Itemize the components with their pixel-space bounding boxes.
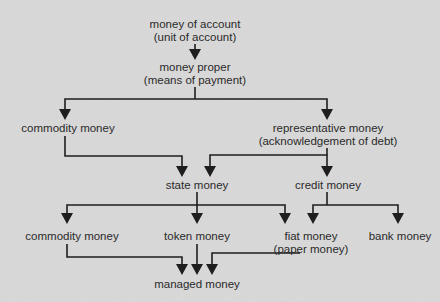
money-hierarchy-diagram: money of account (unit of account) money…: [0, 0, 440, 302]
node-label: money of account: [150, 18, 241, 31]
node-money-of-account: money of account (unit of account): [150, 18, 241, 43]
node-fiat-money: fiat money (paper money): [274, 230, 349, 255]
edge-proper-split: [59, 87, 333, 120]
node-label: money proper: [144, 61, 246, 74]
edge-state-split: [61, 192, 291, 224]
node-token-money: token money: [164, 230, 230, 243]
diagram-edges: [0, 0, 440, 302]
node-commodity-money-lower: commodity money: [25, 230, 118, 243]
node-label: representative money: [259, 122, 398, 135]
node-representative-money: representative money (acknowledgement of…: [259, 122, 398, 147]
node-label: commodity money: [25, 230, 118, 243]
node-credit-money: credit money: [295, 179, 361, 192]
node-label: state money: [166, 179, 229, 192]
node-label: fiat money: [274, 230, 349, 243]
node-bank-money: bank money: [369, 230, 432, 243]
edge-representative-split: [204, 148, 333, 177]
node-sublabel: (paper money): [274, 243, 349, 256]
node-state-money: state money: [166, 179, 229, 192]
edge-commodity-to-state: [65, 136, 188, 177]
node-commodity-money-upper: commodity money: [21, 122, 114, 135]
edge-to-managed: [67, 244, 300, 275]
node-sublabel: (means of payment): [144, 74, 246, 87]
node-label: managed money: [154, 278, 240, 291]
node-label: credit money: [295, 179, 361, 192]
edge-credit-split: [307, 192, 404, 224]
node-label: bank money: [369, 230, 432, 243]
node-sublabel: (unit of account): [150, 31, 241, 44]
edge-account-to-proper: [189, 44, 201, 60]
node-label: commodity money: [21, 122, 114, 135]
node-label: token money: [164, 230, 230, 243]
node-sublabel: (acknowledgement of debt): [259, 135, 398, 148]
node-managed-money: managed money: [154, 278, 240, 291]
node-money-proper: money proper (means of payment): [144, 61, 246, 86]
